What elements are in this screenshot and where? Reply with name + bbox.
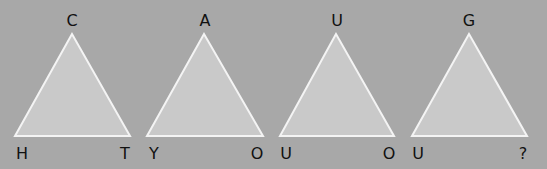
puzzle-canvas: C H T A Y O U U O G U ? — [0, 0, 547, 169]
triangle-1-right-label: T — [120, 146, 130, 162]
triangle-2-right-label: O — [251, 146, 264, 162]
triangle-3 — [280, 34, 394, 136]
triangle-1-left-label: H — [16, 146, 28, 162]
triangle-1 — [15, 34, 130, 136]
triangle-2-top-label: A — [200, 13, 211, 29]
triangle-3-right-label: O — [383, 146, 396, 162]
triangle-2-left-label: Y — [149, 146, 159, 162]
triangle-4-right-label: ? — [519, 146, 528, 162]
triangle-2 — [147, 34, 263, 136]
triangle-4-left-label: U — [412, 146, 424, 162]
triangle-3-top-label: U — [331, 13, 343, 29]
triangle-1-top-label: C — [66, 13, 77, 29]
triangle-4-top-label: G — [463, 13, 475, 29]
triangle-4 — [412, 34, 527, 136]
triangle-3-left-label: U — [280, 146, 292, 162]
